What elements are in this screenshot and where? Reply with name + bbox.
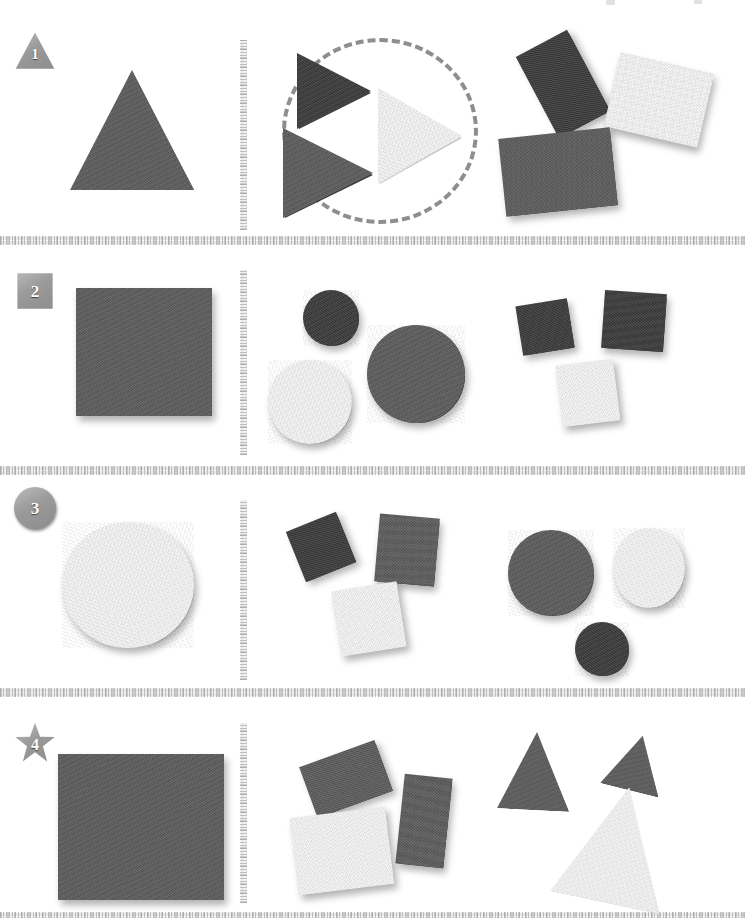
row-marker-3: 3 — [14, 487, 56, 529]
panel-divider-4 — [240, 723, 247, 903]
shape-face — [515, 298, 574, 356]
shape-face — [378, 88, 462, 184]
row-marker-4: 4 — [14, 722, 56, 764]
paper-grain — [367, 325, 465, 423]
row-divider-3 — [0, 688, 745, 697]
row-number: 1 — [32, 48, 39, 62]
group-a-circle-light — [268, 360, 352, 444]
shape-face — [613, 528, 685, 608]
paper-grain — [374, 514, 440, 587]
shape-face — [508, 530, 594, 616]
row-marker-1: 1 — [14, 30, 56, 72]
shape-face — [498, 127, 618, 216]
group-a-triangle-dark — [297, 53, 371, 129]
group-a-triangle-light — [378, 88, 462, 184]
paper-grain — [497, 730, 573, 812]
paper-grain — [498, 127, 618, 216]
paper-grain — [613, 528, 685, 608]
scan-artifact-1 — [606, 0, 615, 5]
shape-face — [555, 359, 620, 428]
shape-face — [303, 290, 359, 346]
paper-grain — [303, 290, 359, 346]
paper-grain — [70, 70, 194, 190]
paper-grain — [283, 128, 373, 218]
group-b-triangle-light — [550, 776, 684, 915]
paper-grain — [601, 290, 667, 352]
group-b-circle-dark-small — [575, 622, 629, 676]
row-number: 4 — [31, 737, 39, 753]
paper-grain — [268, 360, 352, 444]
shape-face — [395, 774, 452, 869]
shape-face — [367, 325, 465, 423]
shape-face — [550, 776, 684, 915]
shape-face — [604, 52, 715, 148]
shape-face — [497, 730, 573, 812]
paper-grain — [58, 754, 224, 900]
paper-grain — [286, 512, 356, 582]
group-a-rect-medium — [395, 774, 452, 869]
group-b-rect-medium — [498, 127, 618, 216]
shape-face — [283, 128, 373, 218]
paper-grain — [604, 52, 715, 148]
shape-face — [62, 522, 194, 648]
group-a-square-light — [331, 581, 407, 657]
panel-divider-2 — [240, 270, 247, 455]
row-number: 2 — [31, 283, 40, 300]
group-a-square-dark — [374, 514, 440, 587]
group-a-rect-light — [290, 806, 395, 895]
paper-grain — [290, 806, 395, 895]
shape-face — [70, 70, 194, 190]
row-divider-1 — [0, 236, 745, 245]
group-b-circle-light — [613, 528, 685, 608]
paper-grain — [331, 581, 407, 657]
shape-face — [575, 622, 629, 676]
row-marker-2: 2 — [14, 270, 56, 312]
panel-divider-1 — [240, 40, 247, 230]
paper-grain — [516, 30, 610, 138]
reference-shape-square — [76, 288, 212, 416]
paper-grain — [76, 288, 212, 416]
reference-shape-rectangle — [58, 754, 224, 900]
shape-face — [516, 30, 610, 138]
row-number: 3 — [31, 500, 40, 517]
shape-face — [58, 754, 224, 900]
group-b-circle-medium-large — [508, 530, 594, 616]
shape-face — [601, 290, 667, 352]
row-divider-4 — [0, 912, 745, 918]
group-b-square-light — [555, 359, 620, 428]
paper-grain — [555, 359, 620, 428]
paper-grain — [62, 522, 194, 648]
group-a-circle-dark-large — [367, 325, 465, 423]
paper-grain — [378, 88, 462, 184]
shape-face — [297, 53, 371, 129]
reference-shape-triangle — [70, 70, 194, 190]
paper-grain — [550, 776, 684, 915]
group-b-rect-light — [604, 52, 715, 148]
row-divider-2 — [0, 466, 745, 475]
paper-grain — [575, 622, 629, 676]
group-b-rect-dark — [516, 30, 610, 138]
scan-artifact-2 — [694, 0, 702, 4]
paper-grain — [515, 298, 574, 356]
reference-shape-circle — [62, 522, 194, 648]
group-a-circle-dark-small — [303, 290, 359, 346]
group-b-triangle-dark-left — [497, 730, 573, 812]
paper-grain — [508, 530, 594, 616]
shape-face — [290, 806, 395, 895]
group-a-square-dark-rotated — [286, 512, 356, 582]
shape-face — [76, 288, 212, 416]
paper-grain — [395, 774, 452, 869]
group-a-triangle-medium — [283, 128, 373, 218]
shape-face — [268, 360, 352, 444]
worksheet-page: 1234 — [0, 0, 745, 918]
paper-grain — [297, 53, 371, 129]
panel-divider-3 — [240, 500, 247, 680]
shape-face — [286, 512, 356, 582]
group-b-square-dark-small — [515, 298, 574, 356]
group-b-square-dark — [601, 290, 667, 352]
shape-face — [331, 581, 407, 657]
shape-face — [374, 514, 440, 587]
